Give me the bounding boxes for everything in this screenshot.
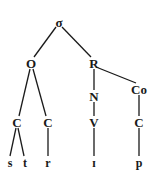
edge-syllable-rhyme xyxy=(62,27,91,57)
onset-node: O xyxy=(26,57,36,70)
edge-onset-c2 xyxy=(33,69,46,116)
rhyme-node: R xyxy=(89,57,98,70)
onset-consonant-2-node: C xyxy=(43,116,52,129)
segment-s: s xyxy=(8,157,13,169)
segment-i: ɪ xyxy=(92,157,95,169)
coda-node: Co xyxy=(131,83,147,96)
segment-p: p xyxy=(136,157,143,169)
segment-r: r xyxy=(45,157,50,169)
edge-rhyme-coda xyxy=(96,67,136,83)
edge-c1-t xyxy=(18,128,24,156)
onset-consonant-1-node: C xyxy=(12,116,21,129)
edge-onset-c1 xyxy=(19,69,30,116)
syllable-tree-diagram: σ O R N Co C C V C s t r ɪ p xyxy=(0,0,156,178)
syllable-node: σ xyxy=(55,16,62,29)
vowel-node: V xyxy=(89,116,98,129)
edge-syllable-onset xyxy=(34,27,56,57)
segment-t: t xyxy=(23,157,27,169)
coda-consonant-node: C xyxy=(134,116,143,129)
edge-c1-s xyxy=(10,128,16,156)
nucleus-node: N xyxy=(89,90,98,103)
